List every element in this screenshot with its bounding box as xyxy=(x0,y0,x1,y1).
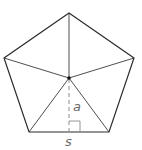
pentagon-diagram: a s xyxy=(0,0,142,150)
center-point xyxy=(67,76,71,80)
apothem-label: a xyxy=(73,99,81,114)
spoke-upper-right xyxy=(69,58,134,78)
spoke-lower-left xyxy=(29,78,69,132)
spoke-upper-left xyxy=(4,58,69,78)
side-label: s xyxy=(65,134,72,149)
right-angle-mark xyxy=(69,121,80,132)
